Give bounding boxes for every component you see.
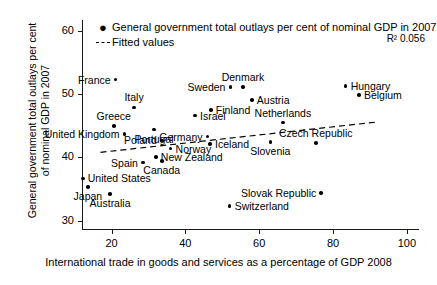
x-tick: [185, 230, 186, 234]
data-point-label: Slovak Republic: [241, 187, 316, 198]
data-point-label: Austria: [257, 94, 290, 105]
data-point: [357, 93, 361, 97]
data-point-label: Netherlands: [255, 108, 312, 119]
legend-item-fitted: Fitted values: [96, 35, 436, 50]
x-tick: [259, 230, 260, 234]
data-point-label: Australia: [90, 198, 131, 209]
data-point-label: Greece: [97, 111, 131, 122]
data-point-label: Sweden: [187, 82, 225, 93]
data-point: [132, 106, 136, 110]
data-point-label: United Kingdom: [45, 129, 120, 140]
data-point: [81, 177, 85, 181]
data-point-label: Italy: [124, 92, 143, 103]
data-point-label: Denmark: [222, 72, 265, 83]
data-point: [108, 192, 112, 196]
data-point: [209, 108, 213, 112]
data-point: [344, 84, 348, 88]
data-point: [229, 85, 233, 89]
y-tick-label: 50: [50, 88, 74, 99]
x-tick: [333, 230, 334, 234]
data-point-label: Czech Republic: [279, 128, 353, 139]
legend-dot-marker-icon: ●: [96, 22, 110, 33]
y-tick: [78, 31, 82, 32]
data-point: [241, 85, 245, 89]
data-point-label: Spain: [111, 157, 138, 168]
x-tick-label: 80: [313, 238, 353, 249]
data-point-label: Germany: [159, 131, 202, 142]
data-point: [206, 135, 210, 139]
data-point: [114, 78, 118, 82]
data-point: [86, 185, 90, 189]
data-point: [152, 128, 156, 132]
r-squared-annotation: R² 0.056: [387, 33, 425, 44]
chart-legend: ● General government total outlays per c…: [96, 20, 436, 50]
data-point: [193, 114, 197, 118]
data-point: [154, 155, 158, 159]
data-point: [269, 140, 273, 144]
x-tick-label: 60: [239, 238, 279, 249]
data-point-label: Slovenia: [250, 146, 290, 157]
x-axis-title: International trade in goods and service…: [0, 256, 437, 268]
x-tick: [112, 230, 113, 234]
legend-dash-marker-icon: [96, 37, 110, 48]
x-axis-line: [82, 229, 419, 230]
data-point-label: Iceland: [215, 139, 249, 150]
y-tick-label: 30: [50, 215, 74, 226]
data-point-label: France: [78, 74, 111, 85]
data-point: [319, 191, 323, 195]
legend-item-series: ● General government total outlays per c…: [96, 20, 436, 35]
x-tick-label: 40: [165, 238, 205, 249]
data-point: [250, 98, 254, 102]
x-tick-label: 20: [92, 238, 132, 249]
y-tick-label: 60: [50, 25, 74, 36]
data-point: [228, 204, 232, 208]
data-point-label: Finland: [216, 104, 250, 115]
y-tick: [78, 221, 82, 222]
y-tick: [78, 157, 82, 158]
legend-label-fitted: Fitted values: [110, 35, 174, 50]
y-tick: [78, 94, 82, 95]
y-tick-label: 40: [50, 151, 74, 162]
x-tick-label: 100: [387, 238, 427, 249]
data-point-label: United States: [88, 173, 151, 184]
y-axis-title: General government total outlays per cen…: [26, 21, 51, 221]
data-point-label: Poland: [124, 135, 157, 146]
data-point: [208, 142, 212, 146]
data-point: [314, 141, 318, 145]
data-point: [281, 121, 285, 125]
scatter-chart: 3040506020406080100 General government t…: [0, 0, 437, 285]
x-tick: [407, 230, 408, 234]
data-point-label: Norway: [176, 143, 212, 154]
data-point-label: Belgium: [364, 89, 402, 100]
data-point-label: Switzerland: [235, 201, 289, 212]
